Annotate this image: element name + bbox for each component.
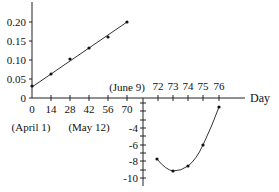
chart: 0 0.05 0.10 0.15 0.20 0 14 28 42 56 70 (…	[0, 0, 279, 192]
y-tick-label: -6	[129, 139, 139, 151]
y-tick-label: -8	[129, 155, 139, 167]
x-tick-label: 74	[183, 80, 195, 92]
left-x-tick-labels: 0 14 28 42 56 70	[29, 103, 133, 115]
x-tick-label: 42	[84, 103, 95, 115]
lower-curve	[157, 107, 219, 171]
y-tick-label: -10	[123, 172, 138, 184]
x-tick-label: 14	[46, 103, 58, 115]
x-tick-label: 73	[168, 80, 180, 92]
x-tick-label: 28	[65, 103, 77, 115]
x-tick-label: 72	[153, 80, 164, 92]
x-axis-title: Day	[250, 91, 270, 105]
date-june-label: (June 9)	[109, 81, 145, 94]
y-tick-label: 0.20	[7, 16, 27, 28]
upper-trend-line	[32, 22, 127, 87]
x-tick-label: 75	[198, 80, 210, 92]
y-tick-label: 0.10	[7, 54, 27, 66]
x-tick-label: 70	[122, 103, 134, 115]
right-x-tick-labels: 72 73 74 75 76	[153, 80, 226, 92]
left-y-tick-labels: 0 0.05 0.10 0.15 0.20	[7, 16, 27, 104]
lower-points	[155, 105, 220, 172]
date-april-label: (April 1)	[12, 121, 51, 134]
x-tick-label: 76	[214, 80, 226, 92]
right-y-tick-labels: -4 -6 -8 -10	[123, 122, 138, 184]
y-tick-label: -4	[129, 122, 139, 134]
x-tick-label: 56	[103, 103, 115, 115]
y-tick-label: 0	[21, 92, 27, 104]
y-tick-label: 0.15	[7, 35, 27, 47]
date-may-label: (May 12)	[68, 121, 110, 134]
x-tick-label: 0	[29, 103, 35, 115]
y-tick-label: 0.05	[7, 73, 27, 85]
